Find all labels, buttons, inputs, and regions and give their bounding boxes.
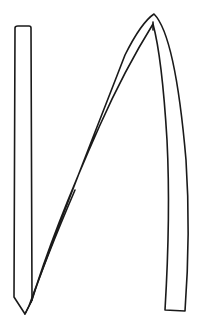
diagonal-and-right-stroke	[25, 14, 188, 314]
inner-diagonal-edge	[31, 190, 75, 302]
drawing-canvas	[0, 0, 203, 329]
letter-n-outline	[0, 0, 203, 329]
left-stroke	[14, 26, 32, 314]
